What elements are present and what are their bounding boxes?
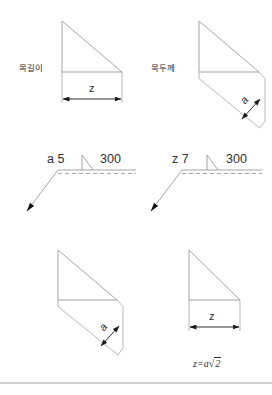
weld-length-middle-right: 300: [226, 153, 247, 166]
panel-bottom-left-geometry: [58, 250, 123, 355]
label-mokgiri: 목길이: [19, 64, 43, 73]
label-mokdukke: 목두께: [151, 64, 175, 73]
formula-equals: =: [197, 358, 204, 369]
figure-canvas: 목길이 z 목두께 a a 5 300 z 7 300 a z z=a√2: [0, 0, 272, 395]
panel-bottom-right-geometry: [189, 250, 240, 331]
formula-radicand: 2: [214, 357, 221, 369]
formula-throat-relation: z=a√2: [193, 359, 221, 369]
dimension-label-z-top-left: z: [89, 83, 95, 94]
dimension-label-a-top-right: a: [238, 94, 250, 106]
drawing-vector-layer: [0, 0, 272, 395]
dimension-label-a-bottom-left: a: [97, 321, 109, 333]
weld-length-middle-left: 300: [100, 153, 121, 166]
weld-size-middle-right: z 7: [172, 153, 189, 166]
dimension-label-z-bottom-right: z: [209, 311, 215, 322]
weld-size-middle-left: a 5: [47, 153, 64, 166]
panel-top-right-geometry: [199, 21, 265, 128]
